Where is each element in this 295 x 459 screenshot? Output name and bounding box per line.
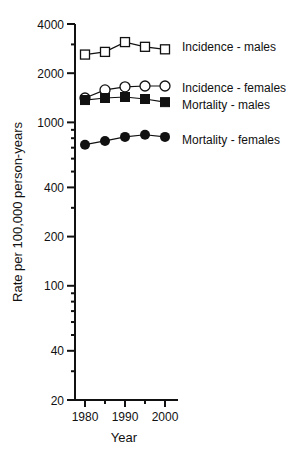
legend-label: Incidence - females [182, 81, 286, 95]
y-tick-label: 2000 [37, 67, 64, 81]
legend-label: Mortality - females [182, 133, 280, 147]
open-square-marker-icon [101, 47, 110, 56]
filled-circle-marker-icon [100, 136, 110, 146]
filled-square-marker-icon [101, 93, 110, 102]
filled-square-marker-icon [141, 95, 150, 104]
x-axis: 198019902000 [67, 400, 179, 424]
open-square-marker-icon [81, 50, 90, 59]
open-square-marker-icon [121, 38, 130, 47]
filled-circle-marker-icon [80, 140, 90, 150]
filled-square-marker-icon [161, 98, 170, 107]
open-square-marker-icon [141, 42, 150, 51]
y-tick-label: 1000 [37, 116, 64, 130]
legend-label: Mortality - males [182, 98, 270, 112]
open-circle-marker-icon [160, 81, 170, 91]
y-tick-label: 40 [51, 344, 65, 358]
x-tick-label: 1980 [72, 410, 99, 424]
series-mortality-females [80, 130, 170, 150]
legend: Incidence - malesIncidence - femalesMort… [182, 40, 286, 147]
x-axis-label: Year [111, 430, 138, 445]
filled-circle-marker-icon [160, 132, 170, 142]
series-incidence-males [81, 38, 170, 59]
series-group [80, 38, 170, 150]
y-tick-label: 4000 [37, 18, 64, 32]
y-tick-label: 200 [44, 230, 64, 244]
open-circle-marker-icon [140, 81, 150, 91]
filled-square-marker-icon [121, 92, 130, 101]
filled-square-marker-icon [81, 96, 90, 105]
open-circle-marker-icon [120, 82, 130, 92]
y-tick-label: 20 [51, 394, 65, 408]
x-tick-label: 2000 [152, 410, 179, 424]
x-tick-label: 1990 [112, 410, 139, 424]
filled-circle-marker-icon [120, 132, 130, 142]
open-square-marker-icon [161, 45, 170, 54]
rate-chart: 2040100200400100020004000 198019902000 I… [0, 0, 295, 459]
y-tick-label: 100 [44, 279, 64, 293]
filled-circle-marker-icon [140, 130, 150, 140]
y-axis: 2040100200400100020004000 [37, 18, 75, 408]
y-tick-label: 400 [44, 181, 64, 195]
y-axis-label: Rate per 100,000 person-years [10, 122, 25, 302]
legend-label: Incidence - males [182, 40, 276, 54]
